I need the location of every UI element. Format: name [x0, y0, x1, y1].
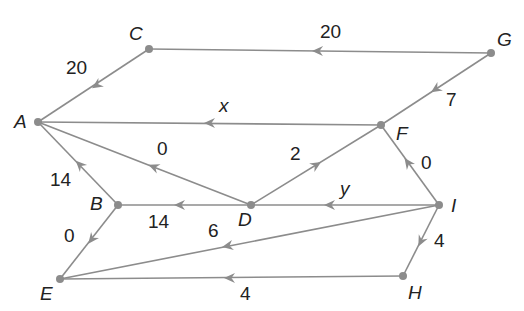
- edge-weight: 0: [421, 152, 432, 173]
- edge-d-f: 2: [251, 125, 381, 205]
- node-b: [114, 201, 122, 209]
- edge-b-a: 14: [38, 122, 118, 205]
- edge-b-e: 0: [60, 205, 118, 279]
- edge-weight: 14: [148, 211, 170, 232]
- edge-weight: 14: [50, 169, 72, 190]
- arrowhead-icon: [309, 162, 321, 172]
- node-d: [247, 201, 255, 209]
- node-label-h: H: [408, 282, 422, 303]
- edge-i-d: y: [251, 178, 439, 210]
- arrowhead-icon: [405, 158, 416, 170]
- edge-weight: 20: [320, 21, 341, 42]
- node-label-i: I: [451, 195, 457, 216]
- node-e: [56, 275, 64, 283]
- node-g: [487, 49, 495, 57]
- node-f: [377, 121, 385, 129]
- edge-weight: 0: [157, 138, 168, 159]
- edges-layer: 20207x0201414y0644: [38, 21, 491, 304]
- edge-c-a: 20: [38, 49, 149, 122]
- node-c: [145, 45, 153, 53]
- edge-d-b: 14: [118, 200, 251, 232]
- network-diagram: 20207x0201414y0644 ABCDEFGHI: [0, 0, 524, 311]
- edge-g-c: 20: [149, 21, 491, 56]
- edge-weight: 20: [66, 57, 87, 78]
- node-a: [34, 118, 42, 126]
- node-h: [399, 272, 407, 280]
- edge-f-a: x: [38, 95, 381, 128]
- node-label-a: A: [13, 111, 27, 132]
- edge-weight: 2: [290, 143, 301, 164]
- node-label-c: C: [129, 23, 143, 44]
- arrowhead-icon: [431, 82, 443, 92]
- edge-weight: 6: [208, 220, 219, 241]
- edge-h-e: 4: [60, 273, 403, 304]
- edge-line: [38, 49, 149, 122]
- edge-g-f: 7: [381, 53, 491, 125]
- edge-weight: 4: [240, 283, 251, 304]
- edge-weight: x: [218, 95, 230, 116]
- edge-d-a: 0: [38, 122, 251, 205]
- node-label-b: B: [90, 193, 103, 214]
- edge-line: [38, 122, 251, 205]
- edge-weight: 4: [434, 230, 445, 251]
- edge-weight: y: [338, 178, 351, 199]
- arrowhead-icon: [88, 232, 99, 244]
- edge-weight: 7: [446, 89, 457, 110]
- node-label-f: F: [396, 123, 409, 144]
- node-label-d: D: [238, 209, 252, 230]
- node-label-g: G: [497, 29, 512, 50]
- node-label-e: E: [40, 283, 53, 304]
- edge-i-f: 0: [381, 125, 439, 205]
- node-i: [435, 201, 443, 209]
- edge-i-h: 4: [403, 205, 445, 276]
- edge-weight: 0: [64, 225, 75, 246]
- labels-layer: ABCDEFGHI: [13, 23, 512, 304]
